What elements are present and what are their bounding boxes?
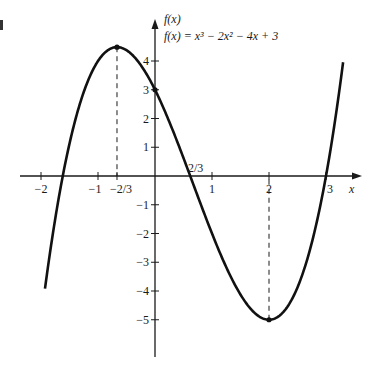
- x-tick-label: −1: [89, 182, 102, 196]
- x-tick-label: −2: [35, 182, 48, 196]
- y-axis-label: f(x): [164, 12, 181, 26]
- y-tick-label: 1: [143, 140, 149, 154]
- point-marker: [152, 87, 157, 92]
- point-marker: [114, 45, 119, 50]
- tick-labels: −2−1−2/31234321−1−2−3−4−5: [35, 54, 333, 327]
- y-tick-label: −3: [136, 255, 149, 269]
- y-tick-label: −4: [136, 284, 149, 298]
- y-axis-arrow-icon: [152, 19, 159, 29]
- x-axis-label: x: [348, 182, 355, 196]
- x-tick-label: 3: [327, 182, 333, 196]
- y-tick-label: −1: [136, 198, 149, 212]
- y-tick-label: 4: [143, 54, 149, 68]
- x-tick-label: −2/3: [110, 182, 132, 196]
- y-tick-label: 2: [143, 112, 149, 126]
- y-tick-label: −5: [136, 313, 149, 327]
- x-tick-label: 1: [209, 182, 215, 196]
- function-plot: −2−1−2/31234321−1−2−3−4−5 f(x) f(x) = x³…: [0, 0, 377, 369]
- point-marker: [266, 317, 271, 322]
- cropped-mark: [0, 20, 3, 30]
- y-tick-label: 3: [143, 83, 149, 97]
- ticks: [41, 61, 326, 320]
- root-label: 2/3: [188, 161, 203, 175]
- x-axis-arrow-icon: [352, 173, 362, 180]
- y-tick-label: −2: [136, 227, 149, 241]
- equation-label: f(x) = x³ − 2x² − 4x + 3: [164, 29, 278, 43]
- axes: [20, 19, 362, 357]
